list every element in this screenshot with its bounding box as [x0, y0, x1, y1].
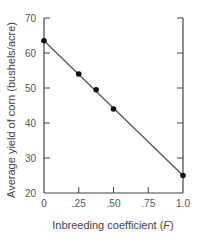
y-tick-label: 40	[25, 118, 37, 129]
x-tick-label: .75	[141, 198, 155, 209]
y-tick-label: 20	[25, 188, 37, 199]
y-tick-label: 60	[25, 48, 37, 59]
axes	[44, 18, 183, 193]
data-point	[76, 71, 82, 77]
x-tick-label: 1.0	[176, 198, 190, 209]
y-tick-label: 70	[25, 13, 37, 24]
y-axis-title: Average yield of corn (bushels/acre)	[5, 22, 17, 198]
y-tick-label: 50	[25, 83, 37, 94]
ticks: 2030405060700.25.50.751.0	[25, 13, 191, 210]
data-point	[93, 87, 99, 93]
plot-area	[41, 38, 186, 178]
data-point	[41, 38, 47, 44]
y-tick-label: 30	[25, 153, 37, 164]
x-tick-label: 0	[41, 198, 47, 209]
x-tick-label: .25	[72, 198, 86, 209]
x-tick-label: .50	[107, 198, 121, 209]
data-point	[180, 173, 186, 179]
chart: 2030405060700.25.50.751.0 Average yield …	[0, 0, 198, 239]
data-point	[111, 106, 117, 112]
x-axis-title: Inbreeding coefficient (F)	[52, 219, 174, 231]
